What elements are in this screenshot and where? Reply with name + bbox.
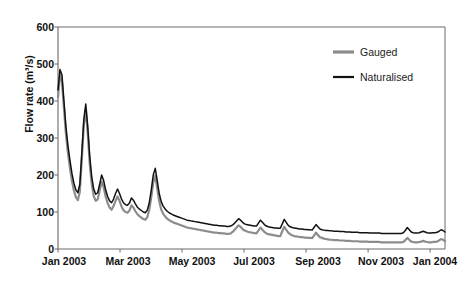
plot-area	[0, 0, 469, 288]
series-line-naturalised	[58, 70, 445, 234]
flow-rate-chart: Flow rate (m³/s) 600 500 400 300 200 100…	[0, 0, 469, 288]
series-line-gauged	[58, 75, 445, 242]
